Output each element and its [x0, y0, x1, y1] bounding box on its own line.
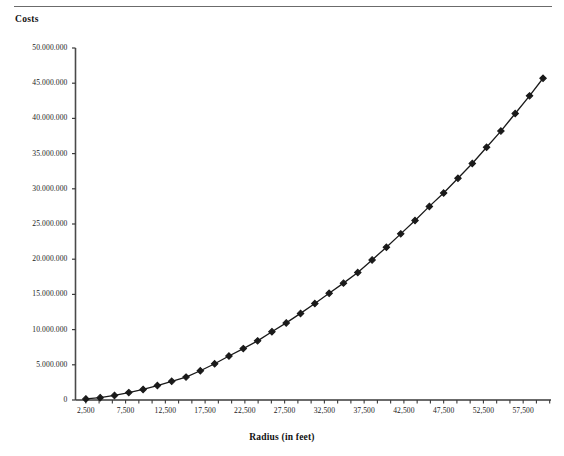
data-point-marker [154, 382, 160, 388]
data-point-marker [269, 329, 275, 335]
data-point-marker [111, 392, 117, 398]
x-axis-title: Radius (in feet) [0, 432, 564, 442]
data-point-marker [83, 396, 89, 402]
y-axis-tick-label: 45.000.000 [0, 78, 68, 87]
y-axis-tick-label: 20.000.000 [0, 254, 68, 263]
data-point-marker [183, 374, 189, 380]
data-point-marker [240, 345, 246, 351]
y-axis-tick-label: 15.000.000 [0, 289, 68, 298]
y-axis-tick-label: 40.000.000 [0, 113, 68, 122]
data-point-marker [126, 389, 132, 395]
chart-page: Costs 05.000.00010.000.00015.000.00020.0… [0, 0, 564, 456]
data-point-marker [140, 386, 146, 392]
chart-plot-area: 05.000.00010.000.00015.000.00020.000.000… [0, 0, 564, 456]
axis-layer [72, 48, 551, 404]
y-axis-tick-label: 35.000.000 [0, 149, 68, 158]
y-axis-tick-label: 25.000.000 [0, 219, 68, 228]
data-point-marker [254, 338, 260, 344]
cost-curve-line [86, 78, 543, 399]
data-point-marker [211, 361, 217, 367]
data-point-marker [197, 368, 203, 374]
data-point-marker [226, 353, 232, 359]
data-point-marker [169, 378, 175, 384]
y-axis-tick-label: 0 [0, 395, 68, 404]
y-axis-tick-label: 5.000.000 [0, 360, 68, 369]
y-axis-tick-label: 30.000.000 [0, 184, 68, 193]
y-axis-tick-label: 50.000.000 [0, 43, 68, 52]
series-layer [83, 75, 547, 402]
y-axis-tick-label: 10.000.000 [0, 325, 68, 334]
cost-curve-chart [0, 0, 564, 456]
x-axis-tick-label: 57,500 [500, 406, 546, 415]
